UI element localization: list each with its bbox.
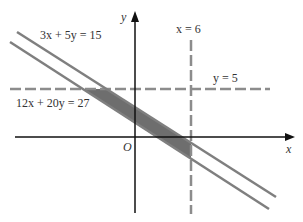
label-12x-20y-27: 12x + 20y = 27 [16, 97, 90, 109]
label-3x-5y-15: 3x + 5y = 15 [40, 29, 102, 41]
x-axis-label: x [286, 143, 291, 155]
line-3x-5y-15 [17, 32, 276, 197]
line-12x-20y-27 [10, 42, 269, 209]
origin-label: O [123, 141, 132, 153]
label-x-equals-6: x = 6 [176, 23, 201, 35]
x-axis-arrow-icon [285, 133, 295, 141]
label-y-equals-5: y = 5 [213, 72, 238, 84]
y-axis-arrow-icon [131, 11, 139, 22]
linear-inequalities-graph: y x O 3x + 5y = 15 12x + 20y = 27 x = 6 … [0, 0, 303, 222]
y-axis-label: y [121, 11, 126, 23]
